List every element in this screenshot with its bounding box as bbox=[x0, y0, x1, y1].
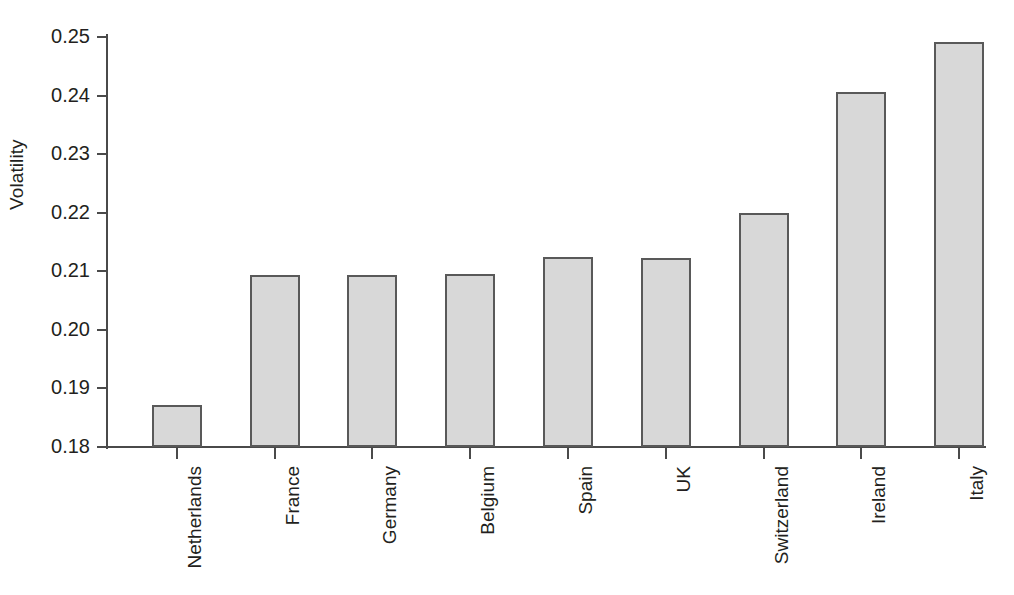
bar bbox=[543, 257, 593, 447]
y-axis-tick-label-text: 0.20 bbox=[24, 319, 90, 339]
y-axis-title: Volatility bbox=[6, 50, 46, 210]
y-axis-tick-label: 0.23 bbox=[18, 143, 90, 163]
bar bbox=[836, 92, 886, 447]
x-axis-tick bbox=[665, 448, 667, 459]
x-axis-tick bbox=[958, 448, 960, 459]
bar bbox=[641, 258, 691, 447]
x-axis-category-label: Netherlands bbox=[186, 466, 204, 568]
y-axis-tick bbox=[97, 387, 106, 389]
bar bbox=[347, 275, 397, 447]
volatility-bar-chart: Volatility 0.180.190.200.210.220.230.240… bbox=[0, 0, 1014, 595]
y-axis-tick-label: 0.24 bbox=[18, 85, 90, 105]
y-axis-tick-label: 0.22 bbox=[18, 202, 90, 222]
x-axis-category-label: Italy bbox=[968, 466, 986, 501]
bar bbox=[445, 274, 495, 447]
x-axis-tick bbox=[763, 448, 765, 459]
y-axis-tick-label-text: 0.21 bbox=[24, 260, 90, 280]
y-axis-tick bbox=[97, 153, 106, 155]
y-axis-tick-label-text: 0.22 bbox=[24, 202, 90, 222]
y-axis-tick bbox=[97, 212, 106, 214]
y-axis-tick-label: 0.25 bbox=[18, 26, 90, 46]
x-axis-category-label: Switzerland bbox=[773, 466, 791, 564]
y-axis-tick-label: 0.18 bbox=[18, 436, 90, 456]
x-axis-tick bbox=[274, 448, 276, 459]
y-axis-tick bbox=[97, 446, 106, 448]
x-axis-tick bbox=[469, 448, 471, 459]
y-axis-tick-label-text: 0.19 bbox=[24, 377, 90, 397]
x-axis-tick bbox=[567, 448, 569, 459]
y-axis-tick-label-text: 0.23 bbox=[24, 143, 90, 163]
bar bbox=[739, 213, 789, 447]
y-axis-tick-label-text: 0.18 bbox=[24, 436, 90, 456]
x-axis-category-label: Spain bbox=[577, 466, 595, 515]
bar bbox=[250, 275, 300, 447]
x-axis-category-label: France bbox=[284, 466, 302, 525]
y-axis-tick-label-text: 0.24 bbox=[24, 85, 90, 105]
y-axis-tick bbox=[97, 95, 106, 97]
x-axis-category-label: Ireland bbox=[870, 466, 888, 524]
y-axis-tick-label: 0.21 bbox=[18, 260, 90, 280]
x-axis-category-label: UK bbox=[675, 466, 693, 492]
y-axis-tick-label-text: 0.25 bbox=[24, 26, 90, 46]
y-axis-tick-label: 0.19 bbox=[18, 377, 90, 397]
x-axis-category-label: Belgium bbox=[479, 466, 497, 535]
x-axis-tick bbox=[860, 448, 862, 459]
y-axis-tick bbox=[97, 329, 106, 331]
y-axis-tick bbox=[97, 36, 106, 38]
bar bbox=[934, 42, 984, 447]
y-axis-tick bbox=[97, 270, 106, 272]
y-axis-line bbox=[106, 34, 108, 449]
x-axis-tick bbox=[176, 448, 178, 459]
x-axis-tick bbox=[371, 448, 373, 459]
x-axis-category-label: Germany bbox=[381, 466, 399, 544]
y-axis-tick-label: 0.20 bbox=[18, 319, 90, 339]
bar bbox=[152, 405, 202, 447]
